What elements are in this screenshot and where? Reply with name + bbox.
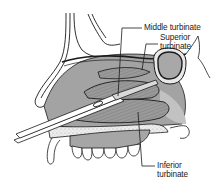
hard-palate bbox=[48, 124, 189, 149]
label-superior-turbinate: Superior turbinate bbox=[160, 33, 191, 51]
upper-lip-outline bbox=[47, 138, 60, 164]
label-middle-turbinate: Middle turbinate bbox=[144, 23, 201, 32]
nasal-anatomy-diagram: Middle turbinate Superior turbinate Infe… bbox=[0, 0, 214, 193]
label-inferior-turbinate: Inferior turbinate bbox=[157, 161, 188, 179]
